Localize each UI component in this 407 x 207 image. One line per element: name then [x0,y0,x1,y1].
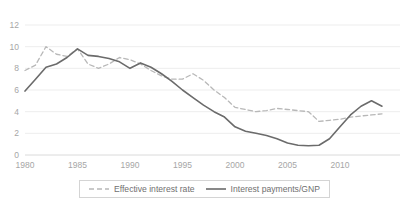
y-tick-label: 10 [10,42,20,52]
x-tick-label: 1995 [173,160,192,170]
x-tick-label: 1980 [16,160,35,170]
data-series [25,47,382,146]
x-tick-label: 2000 [226,160,245,170]
legend-item-interest-payments-gnp: Interest payments/GNP [206,184,320,194]
y-tick-label: 6 [14,85,19,95]
dashed-line-swatch [89,185,109,193]
line-chart: 024681012 1980198519901995200020052010 E… [0,0,407,207]
x-tick-label: 1990 [121,160,140,170]
solid-line-swatch [206,185,226,193]
y-tick-label: 2 [14,128,19,138]
chart-legend: Effective interest rate Interest payment… [79,180,330,198]
legend-label-interest-payments-gnp: Interest payments/GNP [231,184,320,194]
x-tick-label: 1985 [68,160,87,170]
gridlines [25,25,400,155]
legend-label-effective-interest-rate: Effective interest rate [114,184,195,194]
y-tick-label: 4 [14,107,19,117]
series-line-effective-interest-rate [25,47,382,122]
y-axis-tick-labels: 024681012 [10,20,20,160]
y-tick-label: 12 [10,20,20,30]
y-tick-label: 0 [14,150,19,160]
x-tick-label: 2010 [331,160,350,170]
x-axis-tick-labels: 1980198519901995200020052010 [16,160,350,170]
legend-item-effective-interest-rate: Effective interest rate [89,184,195,194]
chart-canvas: 024681012 1980198519901995200020052010 [0,0,407,207]
y-tick-label: 8 [14,63,19,73]
x-tick-label: 2005 [278,160,297,170]
series-line-interest-payments-gnp [25,49,382,146]
